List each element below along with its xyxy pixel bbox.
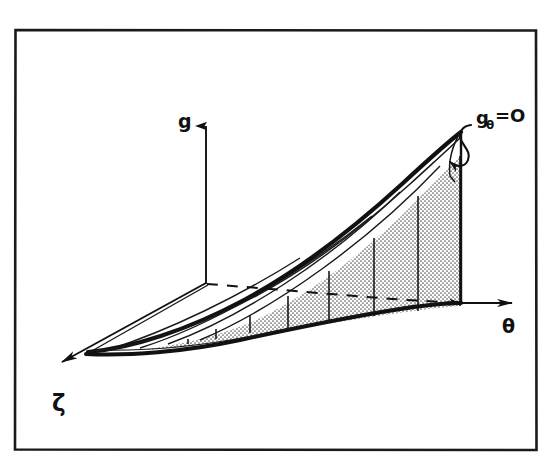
- surface-body: [86, 131, 461, 354]
- axis-label-theta: θ: [502, 315, 515, 337]
- annotation-g-equals-zero: =O: [495, 105, 525, 126]
- axis-label-g: g: [178, 110, 192, 132]
- figure-root: g θ ζ g θ =O: [0, 0, 544, 469]
- axis-label-zeta: ζ: [52, 390, 66, 416]
- annotation-g-subscript: θ: [486, 118, 494, 132]
- annotation-g-theta-zero: g θ =O: [476, 105, 525, 132]
- diagram-canvas: g θ ζ g θ =O: [0, 0, 544, 469]
- surface-shaded-region: [140, 156, 460, 350]
